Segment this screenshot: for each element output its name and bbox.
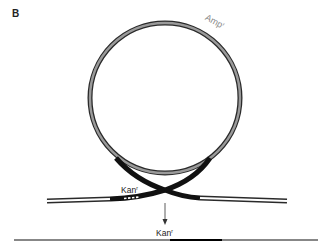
amp-label: Ampr [203, 12, 226, 30]
recombination-diagram: Ampr Kanr Kanr [0, 0, 319, 243]
down-arrow-icon [163, 203, 168, 225]
chromosome-right [165, 190, 287, 201]
plasmid-circle [90, 23, 240, 173]
kan-insert-label: Kanr [121, 185, 138, 195]
chromosome-left [47, 190, 165, 201]
kan-result-label: Kanr [156, 228, 173, 238]
